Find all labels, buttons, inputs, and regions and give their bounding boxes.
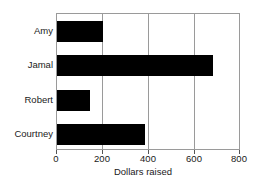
x-axis-ticks: 0 200 400 600 800 [0,150,260,164]
y-axis-tick-label: Robert [1,94,53,105]
y-axis-tick-label: Courtney [1,128,53,139]
x-axis-tick-label: 0 [36,153,76,164]
x-axis-tick-label: 200 [82,153,122,164]
x-axis-title: Dollars raised [0,166,260,177]
x-axis-tick-label: 800 [219,153,259,164]
y-axis-tick-label: Jamal [1,59,53,70]
bar-robert [57,90,90,111]
bar-chart: Amy Jamal Robert Courtney 0 200 400 600 [0,0,260,182]
gridline-400 [148,14,149,149]
bar-jamal [57,55,213,76]
x-axis-tick-label: 400 [128,153,168,164]
x-axis-tick-label: 600 [174,153,214,164]
plot-area [56,13,240,150]
y-axis-labels: Amy Jamal Robert Courtney [0,13,53,150]
y-axis-tick-label: Amy [1,25,53,36]
bar-amy [57,21,103,42]
bar-courtney [57,124,145,145]
gridline-600 [194,14,195,149]
